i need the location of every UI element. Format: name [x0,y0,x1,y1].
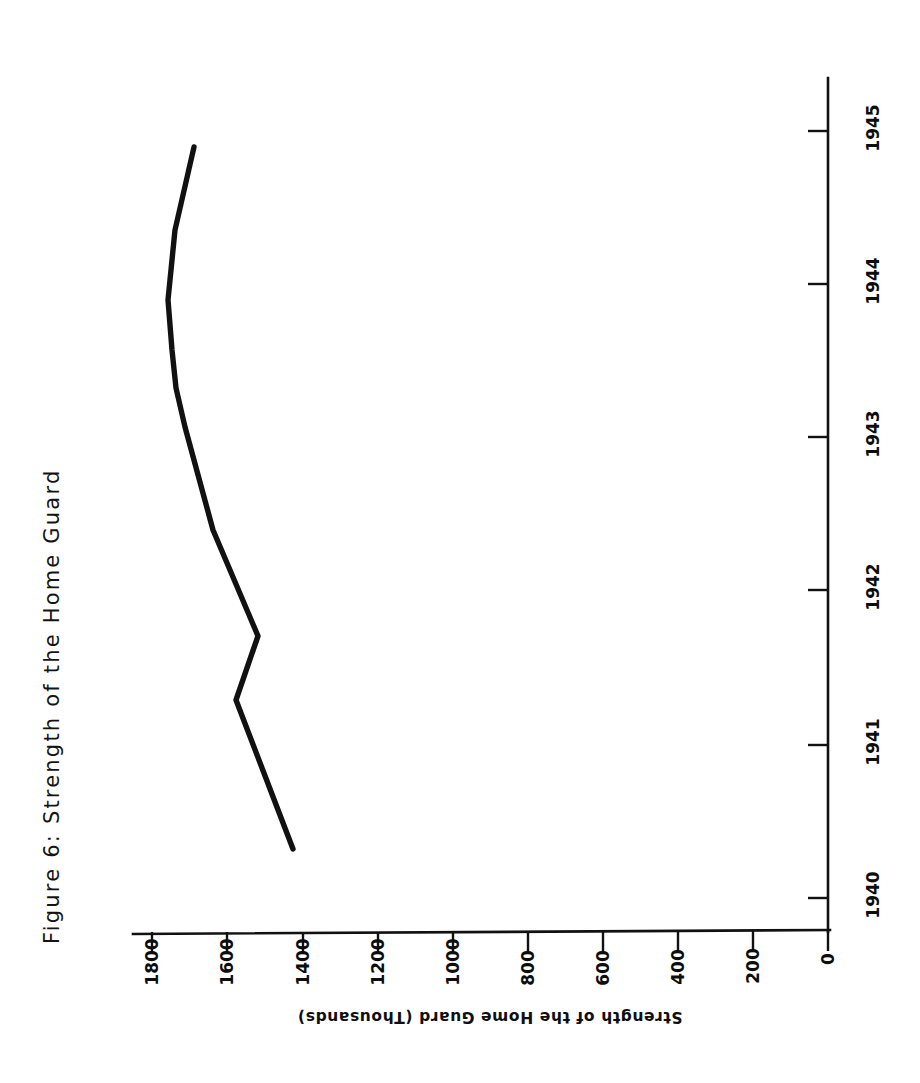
value-tick-label-800: 800 [518,941,538,995]
data-series-line [168,147,293,849]
value-tick-label-1200: 1200 [368,932,388,992]
plot-area: 1800 1600 1400 1200 1000 800 600 400 200… [0,0,920,1083]
value-tick-label-0: 0 [818,941,838,977]
year-tick-label-1941: 1941 [863,712,883,772]
year-tick-label-1945: 1945 [863,98,883,158]
value-tick-label-600: 600 [593,941,613,995]
year-tick-label-1940: 1940 [863,865,883,925]
year-axis-ticks [808,131,828,898]
value-tick-label-1800: 1800 [142,932,162,992]
year-tick-label-1944: 1944 [863,251,883,311]
value-tick-label-1600: 1600 [217,932,237,992]
year-tick-label-1943: 1943 [863,404,883,464]
chart-svg [0,0,920,1083]
value-tick-label-200: 200 [743,939,763,993]
value-tick-label-1000: 1000 [443,932,463,992]
value-axis-spine [133,930,830,934]
year-tick-label-1942: 1942 [863,557,883,617]
value-tick-label-400: 400 [668,940,688,994]
figure-page: Figure 6: Strength of the Home Guard [0,0,920,1083]
value-tick-label-1400: 1400 [293,932,313,992]
value-axis-title: Strength of the Home Guard (Thousands) [210,1002,770,1032]
